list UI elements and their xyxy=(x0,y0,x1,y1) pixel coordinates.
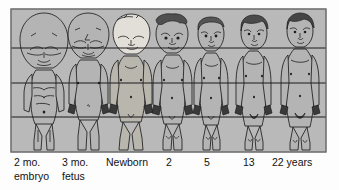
stage-label-5-years: 5 xyxy=(204,156,210,168)
stage-label-2mo-embryo-line2: embryo xyxy=(14,170,49,182)
growth-diagram-svg: 2 mo. embryo 3 mo. fetus Newborn 2 5 13 … xyxy=(0,0,339,190)
stage-label-13-years: 13 xyxy=(243,156,255,168)
stage-label-newborn: Newborn xyxy=(106,156,148,168)
stage-label-3mo-fetus-line1: 3 mo. xyxy=(62,156,88,168)
growth-proportions-figure: 2 mo. embryo 3 mo. fetus Newborn 2 5 13 … xyxy=(0,0,339,190)
stage-label-22-years: 22 years xyxy=(272,156,312,168)
stage-label-2mo-embryo-line1: 2 mo. xyxy=(14,156,40,168)
stage-label-3mo-fetus-line2: fetus xyxy=(62,170,85,182)
stage-label-2-years: 2 xyxy=(166,156,172,168)
